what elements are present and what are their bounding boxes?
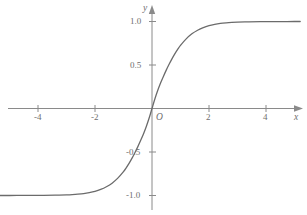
y-tick-label-pos1: 1.0 bbox=[130, 17, 141, 26]
y-axis-arrowhead bbox=[149, 5, 155, 14]
y-tick-label-pos0-5: 0.5 bbox=[130, 61, 141, 70]
x-axis-label: x bbox=[294, 113, 298, 123]
axes-group bbox=[8, 5, 303, 210]
origin-label: O bbox=[156, 113, 163, 123]
x-tick-label-pos2: 2 bbox=[206, 113, 211, 122]
x-axis-arrowhead bbox=[294, 105, 303, 111]
y-tick-label-neg1: -1.0 bbox=[126, 191, 140, 200]
y-axis-label: y bbox=[143, 4, 147, 14]
plot-canvas bbox=[0, 0, 307, 215]
x-tick-label-neg2: -2 bbox=[91, 113, 99, 122]
sigmoid-plot-figure: -4 -2 2 4 1.0 0.5 -0.5 -1.0 y x O bbox=[0, 0, 307, 215]
x-tick-label-neg4: -4 bbox=[34, 113, 42, 122]
x-tick-label-pos4: 4 bbox=[263, 113, 268, 122]
y-tick-label-neg0-5: -0.5 bbox=[126, 148, 140, 157]
